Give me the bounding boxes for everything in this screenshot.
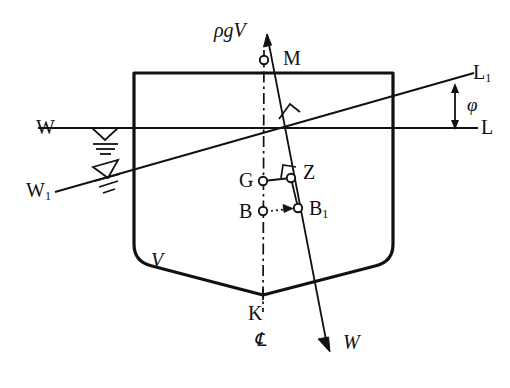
weight-arrowhead xyxy=(318,337,330,352)
label-b1-base: B xyxy=(309,197,322,219)
point-marker-b1 xyxy=(294,204,302,212)
label-waterline-l1-sub: 1 xyxy=(485,71,491,85)
label-righting-arm-point: Z xyxy=(303,162,315,182)
buoyancy-shift-arrowhead xyxy=(283,205,293,213)
label-center-of-gravity: G xyxy=(239,170,253,190)
water-level-symbol-heeled xyxy=(93,160,120,193)
figure-canvas: ρgV M W L W1 L1 φ G Z B B1 V K ℄ W xyxy=(0,0,510,388)
label-waterline-w1-base: W xyxy=(26,179,45,201)
label-metacenter: M xyxy=(283,48,301,68)
label-weight-force: W xyxy=(343,332,360,352)
point-marker-b xyxy=(259,207,267,215)
label-waterline-l: L xyxy=(481,117,493,137)
water-level-symbol-upright xyxy=(92,128,118,154)
label-center-of-buoyancy: B xyxy=(239,201,252,221)
point-marker-m xyxy=(260,56,268,64)
label-heel-angle: φ xyxy=(467,95,478,114)
label-centerline: ℄ xyxy=(254,330,263,349)
label-waterline-w: W xyxy=(36,117,55,137)
point-marker-g xyxy=(259,177,267,185)
label-displaced-volume: V xyxy=(151,250,163,270)
label-center-of-buoyancy-heeled: B1 xyxy=(309,198,328,220)
buoyancy-weight-axis xyxy=(267,34,327,345)
point-marker-z xyxy=(287,174,295,182)
label-waterline-w1-sub: 1 xyxy=(45,189,51,203)
label-waterline-l1-base: L xyxy=(473,61,485,83)
label-waterline-w1: W1 xyxy=(26,180,51,202)
heel-angle-arrowhead-up xyxy=(451,83,459,93)
label-b1-sub: 1 xyxy=(322,207,328,221)
label-keel: K xyxy=(248,303,262,323)
label-buoyancy-force: ρgV xyxy=(214,20,246,40)
buoyancy-arrowhead xyxy=(264,34,272,47)
label-waterline-l1: L1 xyxy=(473,62,491,84)
